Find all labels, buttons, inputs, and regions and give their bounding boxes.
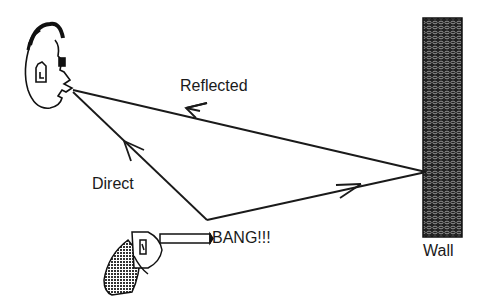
direct-path: [73, 92, 207, 220]
label-reflected: Reflected: [180, 77, 248, 95]
face-icon: [25, 24, 72, 108]
label-bang: BANG!!!: [212, 229, 271, 247]
wall: [423, 18, 462, 237]
label-direct: Direct: [92, 175, 134, 193]
incident-path: [207, 172, 426, 220]
sound-reflection-diagram: [0, 0, 483, 305]
label-wall: Wall: [423, 242, 454, 260]
reflected-path: [73, 90, 426, 172]
gun-icon: [104, 232, 213, 295]
